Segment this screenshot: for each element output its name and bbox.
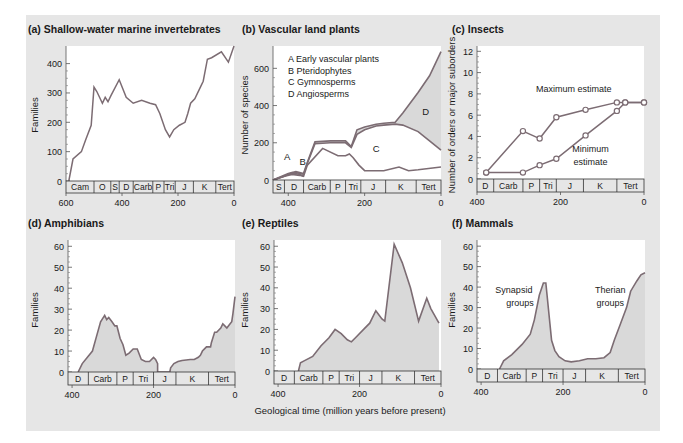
x-tick-label: 0 <box>641 197 646 207</box>
y-tick-label: 300 <box>47 88 62 98</box>
area-label: C <box>373 143 380 154</box>
y-tick-label: 10 <box>260 346 270 356</box>
y-tick-label: 0 <box>265 367 270 377</box>
period-label: P <box>122 374 128 384</box>
period-label: K <box>398 182 404 192</box>
period-label: J <box>163 374 167 384</box>
period-label: Carb <box>93 374 112 384</box>
y-tick-label: 4 <box>468 132 473 142</box>
legend-entry: B Pteridophytes <box>288 66 352 76</box>
x-tick-label: 0 <box>438 389 443 399</box>
period-label: Tri <box>165 182 175 192</box>
y-tick-label: 100 <box>47 147 62 157</box>
svg-text:groups: groups <box>506 298 534 308</box>
period-label: J <box>371 182 375 192</box>
x-tick-label: 0 <box>232 390 237 400</box>
chart-title: (b) Vascular land plants <box>242 23 360 35</box>
x-tick-label: 200 <box>556 387 571 397</box>
data-point <box>623 100 628 105</box>
annotation: Minimum <box>572 144 609 154</box>
y-tick-label: 20 <box>54 326 64 336</box>
chart-title: (f) Mammals <box>452 217 513 229</box>
annotation: estimate <box>574 157 608 167</box>
y-axis-label: Families <box>446 292 457 328</box>
legend-entry: D Angiosperms <box>288 89 350 99</box>
period-label: Tri <box>543 181 553 191</box>
y-tick-label: 6 <box>468 111 473 121</box>
x-tick-label: 0 <box>438 198 443 208</box>
period-label: S <box>276 182 282 192</box>
period-label: Tert <box>623 181 638 191</box>
y-tick-label: 50 <box>463 262 473 272</box>
y-axis-label: Number of orders or major suborders <box>446 37 457 194</box>
data-point <box>554 115 559 120</box>
x-tick-label: 0 <box>642 387 647 397</box>
period-label: D <box>123 182 129 192</box>
x-tick-label: 200 <box>553 197 568 207</box>
legend-entry: A Early vascular plants <box>288 54 380 64</box>
period-label: Tert <box>218 182 233 192</box>
data-point <box>520 129 525 134</box>
data-point <box>614 108 619 113</box>
y-tick-label: 30 <box>260 304 270 314</box>
y-tick-label: 10 <box>463 68 473 78</box>
y-tick-label: 0 <box>57 177 62 187</box>
figure-panel: (a) Shallow-water marine invertebratesFa… <box>0 0 683 443</box>
y-tick-label: 20 <box>463 324 473 334</box>
x-tick-label: 400 <box>271 389 286 399</box>
data-point <box>537 136 542 141</box>
period-label: Carb <box>499 181 518 191</box>
period-label: K <box>599 371 605 381</box>
y-axis-label: Families <box>29 292 40 328</box>
period-label: D <box>281 373 287 383</box>
y-axis-label: Number of species <box>239 75 250 154</box>
y-tick-label: 60 <box>260 242 270 252</box>
y-tick-label: 400 <box>254 101 269 111</box>
period-label: Carb <box>308 182 327 192</box>
y-tick-label: 60 <box>54 242 64 252</box>
period-label: P <box>156 182 162 192</box>
data-point <box>641 100 646 105</box>
chart-title: (a) Shallow-water marine invertebrates <box>28 23 221 35</box>
x-tick-label: 400 <box>469 197 484 207</box>
period-label: P <box>528 181 534 191</box>
y-tick-label: 40 <box>54 284 64 294</box>
data-point <box>484 170 489 175</box>
y-tick-label: 600 <box>254 64 269 74</box>
y-tick-label: 400 <box>47 59 62 69</box>
area-label: B <box>300 156 306 167</box>
period-label: D <box>291 182 297 192</box>
x-tick-label: 400 <box>114 198 129 208</box>
period-label: Cam <box>71 182 89 192</box>
period-label: Tert <box>421 373 436 383</box>
period-label: J <box>182 182 186 192</box>
period-label: P <box>335 182 341 192</box>
y-tick-label: 60 <box>463 242 473 252</box>
y-tick-label: 10 <box>463 344 473 354</box>
period-label: J <box>369 373 373 383</box>
period-label: O <box>99 182 106 192</box>
period-label: Tri <box>548 371 558 381</box>
period-label: P <box>328 373 334 383</box>
x-axis-caption: Geological time (million years before pr… <box>254 405 445 416</box>
period-label: S <box>112 182 118 192</box>
y-tick-label: 30 <box>463 303 473 313</box>
period-label: Tri <box>345 373 355 383</box>
period-label: D <box>482 181 488 191</box>
period-label: D <box>484 371 490 381</box>
svg-text:groups: groups <box>596 298 624 308</box>
x-tick-label: 600 <box>58 198 73 208</box>
y-axis-label: Families <box>29 97 40 133</box>
period-label: K <box>189 374 195 384</box>
period-label: Carb <box>299 373 318 383</box>
period-label: Carb <box>503 371 522 381</box>
y-tick-label: 30 <box>54 305 64 315</box>
y-tick-label: 50 <box>260 263 270 273</box>
x-tick-label: 0 <box>231 198 236 208</box>
x-tick-label: 200 <box>146 390 161 400</box>
y-tick-label: 0 <box>264 176 269 186</box>
y-tick-label: 200 <box>254 138 269 148</box>
annotation: Maximum estimate <box>536 84 612 94</box>
data-point <box>554 156 559 161</box>
y-tick-label: 20 <box>260 325 270 335</box>
